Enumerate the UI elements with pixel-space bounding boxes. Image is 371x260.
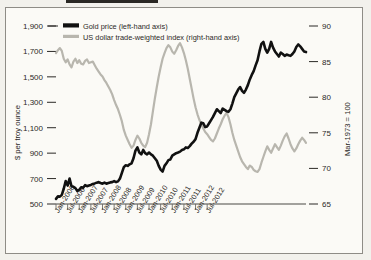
legend-label-gold: Gold price (left-hand axis) (83, 22, 168, 31)
y-tick-label-right: 80 (322, 93, 331, 102)
y-tick-label-left: 1,700 (23, 47, 44, 56)
y-tick-label-left: 900 (30, 149, 44, 158)
y-tick-label-left: 1,900 (23, 22, 44, 31)
y-tick-label-right: 90 (322, 22, 331, 31)
series-line (56, 42, 306, 199)
cropped-heading-fragment (66, 0, 158, 3)
y-tick-label-right: 75 (322, 129, 331, 138)
y-tick-label-left: 1,100 (23, 124, 44, 133)
y-axis-left-title: $ per troy ounce (13, 105, 22, 160)
legend-swatch-gold (63, 23, 79, 27)
x-axis-ticks: Jan-2006Jul-2006Jan-2007Jul-2007Jan-2008… (53, 184, 306, 215)
series-layer (56, 42, 306, 199)
y-tick-label-right: 85 (322, 58, 331, 67)
y-tick-label-right: 70 (322, 164, 331, 173)
chart-canvas: 1,9001,7001,5001,3001,100900700500 90858… (6, 8, 361, 252)
y-tick-label-left: 1,300 (23, 98, 44, 107)
series-line (56, 43, 306, 172)
legend: Gold price (left-hand axis) US dollar tr… (48, 22, 240, 42)
figure-page: 1,9001,7001,5001,3001,100900700500 90858… (0, 0, 371, 260)
chart-frame: 1,9001,7001,5001,3001,100900700500 90858… (5, 7, 363, 254)
y-tick-label-left: 1,500 (23, 73, 44, 82)
y-tick-label-left: 700 (30, 175, 44, 184)
legend-swatch-usd (63, 35, 79, 38)
y-tick-label-right: 65 (322, 200, 331, 209)
y-axis-right-ticks: 908580757065 (309, 22, 331, 209)
legend-label-usd: US dollar trade-weighted index (right-ha… (83, 33, 240, 42)
y-axis-left-ticks: 1,9001,7001,5001,3001,100900700500 (23, 22, 56, 209)
y-axis-right-title: Mar-1973 = 100 (343, 102, 352, 156)
y-tick-label-left: 500 (30, 200, 44, 209)
